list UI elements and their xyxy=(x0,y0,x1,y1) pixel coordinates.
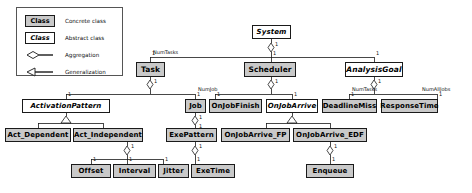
multiplicity-offset-top: 1 xyxy=(93,157,96,162)
class-node-interval[interactable]: Interval xyxy=(113,164,156,178)
multiplicity-analysisgoal-down: 1 xyxy=(378,79,381,84)
class-node-exetime[interactable]: ExeTime xyxy=(191,164,235,178)
aggregation-diamond-icon xyxy=(327,146,333,155)
multiplicity-enqueue-top: 1 xyxy=(332,157,335,162)
class-node-responsetime[interactable]: ResponseTime xyxy=(381,99,438,113)
class-node-jitter[interactable]: Jitter xyxy=(158,164,189,178)
multiplicity-act-independent-down: 1 xyxy=(131,144,134,149)
multiplicity-analysisgoal-top: 1 xyxy=(376,51,379,56)
multiplicity-task-top: 1 xyxy=(152,51,155,56)
class-node-act-independent[interactable]: Act_Independent xyxy=(73,128,143,142)
multiplicity-onjobarrive-edf-down: 1 xyxy=(334,144,337,149)
class-node-offset[interactable]: Offset xyxy=(71,164,111,178)
aggregation-diamond-icon xyxy=(192,146,198,155)
class-node-exepattern[interactable]: ExePattern xyxy=(166,128,217,142)
aggregation-diamond-icon xyxy=(147,80,153,89)
class-node-system[interactable]: System xyxy=(252,25,291,39)
multiplicity-system-down: 1 xyxy=(275,42,278,47)
multiplicity-job-down: 1 xyxy=(199,115,202,120)
class-node-enqueue[interactable]: Enqueue xyxy=(306,164,354,178)
legend-row-aggregation: Aggregation xyxy=(25,47,99,63)
aggregation-arrow-icon xyxy=(25,49,55,61)
class-node-onjobarrive-fp[interactable]: OnJobArrive_FP xyxy=(221,128,290,142)
class-node-task[interactable]: Task xyxy=(136,62,165,77)
aggregation-diamond-icon xyxy=(124,146,130,155)
edge-label-task-job: NumJob xyxy=(198,87,218,92)
legend-row-abstract: Class Abstract class xyxy=(25,30,104,46)
class-node-act-dependent[interactable]: Act_Dependent xyxy=(5,128,71,142)
multiplicity-deadlinemiss-top: 1 xyxy=(351,92,354,97)
legend-label-aggregation: Aggregation xyxy=(65,52,99,58)
legend-swatch-concrete: Class xyxy=(25,15,55,27)
multiplicity-exepattern-top: 1 xyxy=(199,124,202,129)
multiplicity-onjobarrive-top: 1 xyxy=(294,92,297,97)
edge-label-goal-left: NumTasks xyxy=(352,87,377,92)
multiplicity-exetime-top: 1 xyxy=(197,157,200,162)
generalization-triangle-icon xyxy=(287,116,297,123)
class-node-deadlinemiss[interactable]: DeadlineMiss xyxy=(322,99,377,113)
legend-swatch-abstract: Class xyxy=(25,32,55,44)
class-node-activationpattern[interactable]: ActivationPattern xyxy=(22,99,110,113)
multiplicity-job-top: 1 xyxy=(197,92,200,97)
multiplicity-responsetime-top: 1 xyxy=(439,92,442,97)
class-node-onjobfinish[interactable]: OnJobFinish xyxy=(209,99,262,113)
class-node-onjobarrive[interactable]: OnJobArrive xyxy=(266,99,318,113)
multiplicity-scheduler-top: 1 xyxy=(273,51,276,56)
legend-row-concrete: Class Concrete class xyxy=(25,13,106,29)
edge-label-goal-right: NumAllJobs xyxy=(422,87,450,92)
generalization-triangle-icon xyxy=(61,116,71,123)
legend-panel: Class Concrete class Class Abstract clas… xyxy=(16,7,123,76)
multiplicity-task-down: 1 xyxy=(154,79,157,84)
legend-row-generalization: Generalization xyxy=(25,64,106,80)
legend-label-concrete: Concrete class xyxy=(65,18,106,24)
class-node-analysisgoal[interactable]: AnalysisGoal xyxy=(345,62,403,77)
aggregation-diamond-icon xyxy=(192,116,198,125)
multiplicity-onjobfinish-top: 1 xyxy=(217,92,220,97)
aggregation-diamond-icon xyxy=(268,80,274,89)
multiplicity-scheduler-down: 1 xyxy=(275,79,278,84)
legend-label-abstract: Abstract class xyxy=(65,35,104,41)
legend-label-generalization: Generalization xyxy=(65,69,106,75)
generalization-triangles xyxy=(61,116,297,123)
class-node-onjobarrive-edf[interactable]: OnJobArrive_EDF xyxy=(293,128,367,142)
multiplicity-interval-top: 1 xyxy=(129,157,132,162)
generalization-arrow-icon xyxy=(25,66,55,78)
multiplicity-activationpattern-top: 1 xyxy=(68,92,71,97)
class-node-job[interactable]: Job xyxy=(185,99,206,113)
uml-class-diagram: Class Concrete class Class Abstract clas… xyxy=(0,0,472,193)
edge-label-system-bus: NumTasks xyxy=(153,50,178,55)
class-node-scheduler[interactable]: Scheduler xyxy=(244,62,296,77)
multiplicity-jitter-top: 1 xyxy=(165,157,168,162)
multiplicity-exepattern-down: 1 xyxy=(199,144,202,149)
